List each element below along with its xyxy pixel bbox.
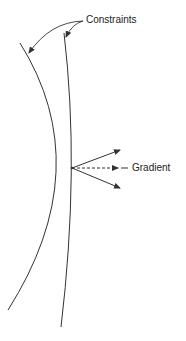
gradient-label: Gradient xyxy=(132,163,170,173)
diagram-canvas: Constraints Gradient xyxy=(0,0,186,341)
constraints-label: Constraints xyxy=(86,15,137,25)
constraint-curve-left xyxy=(8,43,56,310)
constraint-normal-arrow-upper xyxy=(72,150,120,168)
constraint-curve-right xyxy=(61,33,71,327)
intersection-point xyxy=(71,167,74,170)
constraints-leader-left xyxy=(29,21,83,53)
constraint-normal-arrow-lower xyxy=(72,168,120,188)
